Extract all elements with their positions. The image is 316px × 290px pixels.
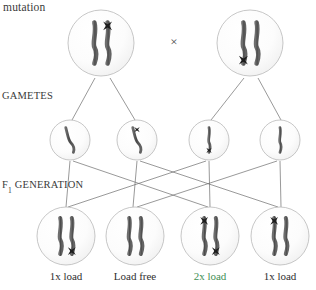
chromosome: [60, 218, 62, 254]
f1-offspring-cell: [37, 207, 95, 265]
cross-symbol: ×: [170, 34, 177, 50]
f1-offspring-cell: [106, 207, 164, 265]
meiosis-line: [258, 78, 281, 120]
gamete-cell: [50, 120, 90, 160]
label-gametes: GAMETES: [2, 90, 53, 101]
parent-cell: [68, 10, 134, 76]
chromosome: [71, 218, 73, 254]
cell-membrane: [217, 10, 283, 76]
offspring-label-2: Load free: [114, 270, 156, 282]
cell-membrane: [68, 10, 134, 76]
chromosome: [280, 128, 281, 153]
cell-membrane: [106, 207, 164, 265]
fertilization-line: [137, 161, 277, 207]
label-mutation: mutation: [3, 1, 46, 13]
chromosome: [243, 23, 245, 64]
fertilization-line: [209, 161, 210, 207]
label-f1-generation: F1 GENERATION: [2, 179, 83, 193]
gamete-cell: [189, 120, 229, 160]
offspring-label-4: 1x load: [264, 270, 297, 282]
chromosome: [204, 218, 206, 254]
chromosome: [215, 218, 217, 254]
cell-membrane: [181, 207, 239, 265]
gamete-cell: [260, 120, 300, 160]
offspring-label-1: 1x load: [50, 270, 83, 282]
chromosome: [274, 218, 276, 254]
meiosis-line: [211, 78, 244, 120]
connector-lines-group: [66, 78, 281, 207]
genetics-cross-diagram: mutation GAMETES F1 GENERATION × 1x load…: [0, 0, 316, 290]
offspring-label-3: 2x load: [194, 270, 227, 282]
fertilization-line: [280, 161, 281, 207]
chromosome: [129, 218, 131, 254]
chromosome: [107, 23, 109, 64]
meiosis-line: [72, 78, 95, 120]
chromosome: [209, 128, 210, 153]
f1-offspring-cell: [181, 207, 239, 265]
parent-cell: [217, 10, 283, 76]
f1-subscript: 1: [8, 186, 12, 195]
meiosis-line: [110, 78, 135, 120]
chromosome: [94, 23, 96, 64]
gamete-cell: [117, 120, 157, 160]
f1-offspring-cell: [251, 207, 309, 265]
cell-membrane: [37, 207, 95, 265]
diagram-canvas: [0, 0, 316, 290]
chromosome: [140, 218, 142, 254]
fertilization-line: [68, 161, 206, 207]
chromosome: [285, 218, 287, 254]
cell-membrane: [251, 207, 309, 265]
fertilization-line: [73, 161, 208, 207]
f1-suffix: GENERATION: [12, 179, 83, 190]
chromosome: [256, 23, 258, 64]
